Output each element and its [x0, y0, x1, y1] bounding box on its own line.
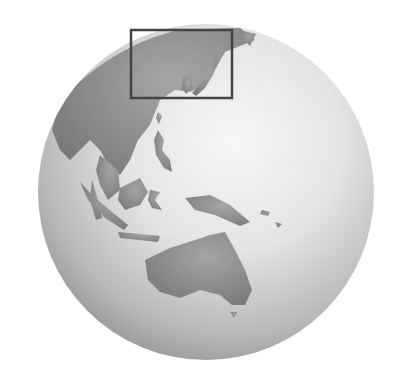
globe-map [0, 0, 401, 366]
